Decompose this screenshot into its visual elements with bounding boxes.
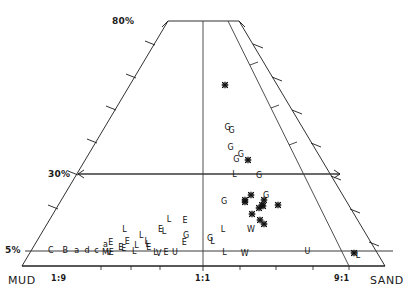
data-point-letter: L (222, 249, 226, 257)
data-point-star (256, 204, 263, 211)
data-point-letter: W (247, 226, 255, 234)
data-points-layer: GGGGGLGGGLELELLWLGGELLEEaLLEEECBadcLvEML… (0, 0, 415, 297)
sediment-classification-figure: 80% 30% 5% MUD SAND 1:9 1:1 9:1 GGGGGLGG… (0, 0, 415, 297)
data-point-star (274, 201, 281, 208)
data-point-letter: U (172, 249, 178, 257)
data-point-letter: E (109, 249, 114, 257)
data-point-star (248, 211, 255, 218)
data-point-letter: B (63, 247, 69, 255)
data-point-letter: E (108, 239, 113, 247)
data-point-letter: G (256, 172, 262, 180)
data-point-letter: G (221, 198, 227, 206)
data-point-letter: L (221, 226, 225, 234)
data-point-letter: C (48, 247, 54, 255)
data-point-letter: E (121, 245, 126, 253)
data-point-letter: W (241, 250, 249, 258)
data-point-star (248, 191, 255, 198)
data-point-letter: V (156, 250, 161, 258)
data-point-star (221, 81, 228, 88)
data-point-letter: G (233, 156, 239, 164)
data-point-letter: d (85, 247, 90, 255)
data-point-letter: L (132, 248, 136, 256)
data-point-letter: L (232, 171, 236, 179)
data-point-letter: E (182, 217, 187, 225)
data-point-letter: L (210, 238, 214, 246)
data-point-letter: E (146, 244, 151, 252)
data-point-letter: E (182, 239, 187, 247)
data-point-letter: a (74, 247, 79, 255)
data-point-letter: L (122, 226, 126, 234)
data-point-letter: U (304, 248, 310, 256)
data-point-letter: M (102, 249, 109, 257)
data-point-letter: G (227, 144, 233, 152)
data-point-letter: L (167, 216, 171, 224)
data-point-letter: L (139, 232, 143, 240)
data-point-letter: c (94, 247, 98, 255)
data-point-star (242, 199, 249, 206)
data-point-letter: L (356, 252, 360, 260)
data-point-letter: E (163, 249, 168, 257)
data-point-letter: G (228, 127, 234, 135)
data-point-star (261, 220, 268, 227)
data-point-star (244, 157, 251, 164)
data-point-letter: L (162, 228, 166, 236)
